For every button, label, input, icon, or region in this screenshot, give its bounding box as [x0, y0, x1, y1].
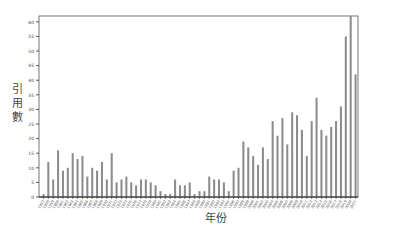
bar — [140, 179, 142, 197]
bar — [325, 136, 327, 197]
bar — [47, 162, 49, 197]
plot-frame — [39, 16, 358, 197]
bar — [203, 191, 205, 197]
bar — [198, 191, 200, 197]
y-tick-label: 15 — [28, 151, 34, 156]
y-tick-label: 45 — [28, 63, 34, 68]
bar — [345, 36, 347, 197]
bar — [233, 171, 235, 197]
bar — [335, 121, 337, 197]
bar — [247, 147, 249, 197]
bar — [101, 162, 103, 197]
bar — [330, 127, 332, 197]
bar — [228, 191, 230, 197]
bar — [155, 185, 157, 197]
bar — [218, 179, 220, 197]
bar — [306, 156, 308, 197]
bar — [213, 179, 215, 197]
bar — [286, 144, 288, 197]
bar — [277, 136, 279, 197]
bar — [208, 177, 210, 197]
bar — [125, 177, 127, 197]
bar — [237, 168, 239, 197]
bar — [252, 156, 254, 197]
bar — [281, 118, 283, 197]
bar — [296, 115, 298, 197]
y-tick-label: 50 — [28, 49, 34, 54]
bar — [272, 121, 274, 197]
bar — [116, 182, 118, 197]
y-tick-label: 30 — [28, 107, 34, 112]
bar — [311, 121, 313, 197]
bar — [291, 112, 293, 197]
bar — [111, 153, 113, 197]
y-tick-label: 5 — [31, 180, 34, 185]
bar — [316, 98, 318, 197]
bar — [81, 156, 83, 197]
bar — [350, 16, 352, 197]
bar — [130, 182, 132, 197]
x-axis-label: 年份 — [205, 209, 227, 225]
bar — [72, 153, 74, 197]
bar — [86, 177, 88, 197]
bar — [120, 179, 122, 197]
y-tick-label: 40 — [28, 78, 34, 83]
bar — [301, 130, 303, 197]
bar — [57, 150, 59, 197]
y-tick-label: 55 — [28, 34, 34, 39]
bar — [62, 171, 64, 197]
bar — [184, 185, 186, 197]
bar — [106, 179, 108, 197]
bar — [52, 179, 54, 197]
y-axis-label-char-3: 數 — [12, 108, 23, 124]
bar-chart: 0510152025303540455055601957195819591960… — [0, 0, 399, 233]
bar — [355, 74, 357, 197]
bar — [67, 168, 69, 197]
bar — [189, 182, 191, 197]
y-tick-label: 60 — [28, 20, 34, 25]
bar — [267, 159, 269, 197]
bar — [242, 142, 244, 197]
bar — [257, 165, 259, 197]
bar — [179, 185, 181, 197]
y-tick-label: 0 — [31, 195, 34, 200]
bar — [150, 182, 152, 197]
bar — [262, 147, 264, 197]
y-tick-label: 25 — [28, 122, 34, 127]
bar — [91, 168, 93, 197]
bar — [159, 191, 161, 197]
y-tick-label: 20 — [28, 136, 34, 141]
bar — [340, 107, 342, 198]
bar — [145, 179, 147, 197]
bar — [96, 171, 98, 197]
y-tick-label: 10 — [28, 166, 34, 171]
bar — [77, 159, 79, 197]
bar — [174, 179, 176, 197]
bar — [223, 182, 225, 197]
bar — [320, 130, 322, 197]
bar — [135, 185, 137, 197]
y-tick-label: 35 — [28, 93, 34, 98]
